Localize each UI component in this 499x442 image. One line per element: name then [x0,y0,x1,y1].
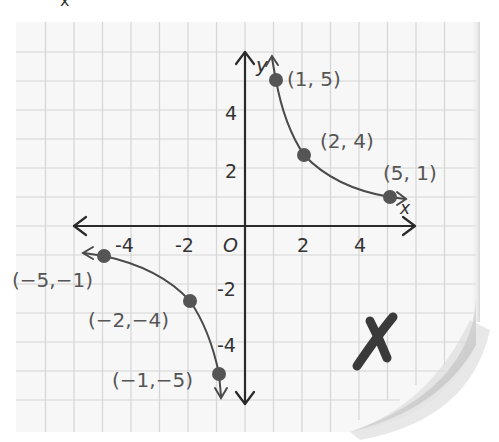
y-tick-label: -2 [217,278,236,300]
y-tick-label: -4 [217,334,236,356]
point-neg1-neg5 [212,367,226,381]
top-glyph: x [60,0,69,10]
origin-label: O [223,234,238,256]
point-neg5-neg1 [97,249,111,263]
x-tick-label: 2 [297,234,309,256]
x-tick-label: -4 [115,234,134,256]
point-2-4 [297,148,311,162]
point-5-1 [383,190,397,204]
graph-paper [16,22,490,440]
point-label: (2, 4) [320,129,374,153]
x-axis-label: x [399,198,411,218]
point-label: (−2,−4) [88,308,169,332]
point-neg2-neg4 [183,294,197,308]
y-tick-label: 2 [225,160,237,182]
y-tick-label: 4 [225,102,237,124]
point-label: (1, 5) [287,67,341,91]
point-label: (5, 1) [383,161,437,185]
x-tick-label: 4 [354,234,366,256]
point-1-5 [269,73,283,87]
x-tick-label: -2 [175,234,194,256]
point-label: (−1,−5) [112,368,193,392]
point-label: (−5,−1) [12,268,93,292]
graph-paper-figure: x [0,0,499,442]
